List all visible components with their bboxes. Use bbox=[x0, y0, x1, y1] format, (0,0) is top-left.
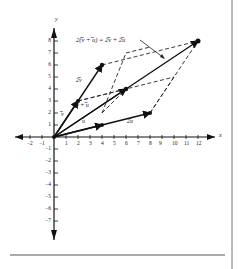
x-tick: 12 bbox=[196, 140, 202, 146]
x-tick: 7 bbox=[137, 140, 140, 146]
x-tick: 6 bbox=[125, 140, 128, 146]
x-tick: 10 bbox=[172, 140, 178, 146]
dashed-construction-lines bbox=[78, 41, 198, 113]
y-tick: 2 bbox=[48, 109, 51, 115]
y-tick: −7 bbox=[45, 217, 51, 223]
x-tick: 3 bbox=[89, 140, 92, 146]
y-tick: 8 bbox=[48, 37, 51, 43]
x-tick: 5 bbox=[113, 140, 116, 146]
y-tick: −3 bbox=[45, 169, 51, 175]
equation-label: 2(̅v + ̅u) = 2̅v + 2̅u bbox=[76, 36, 125, 43]
x-tick: 8 bbox=[149, 140, 152, 146]
y-tick: 4 bbox=[48, 85, 51, 91]
x-tick: 2 bbox=[77, 140, 80, 146]
equation-pointer bbox=[140, 40, 164, 58]
y-tick: 1 bbox=[48, 121, 51, 127]
y-tick: 6 bbox=[48, 61, 51, 67]
y-tick: 7 bbox=[48, 49, 51, 55]
y-tick: −4 bbox=[45, 181, 51, 187]
y-tick: −2 bbox=[45, 157, 51, 163]
y-tick: −5 bbox=[45, 193, 51, 199]
label-2u: 2̅u bbox=[127, 118, 133, 124]
label-u: ̅u bbox=[82, 118, 85, 124]
x-tick: 1 bbox=[65, 140, 68, 146]
y-axis-label: y bbox=[55, 16, 58, 22]
y-tick: −6 bbox=[45, 205, 51, 211]
y-tick: −1 bbox=[45, 145, 51, 151]
label-v: ̅v bbox=[61, 111, 64, 117]
label-v-plus-u: ̅v + ̅u bbox=[76, 102, 89, 108]
x-tick: 9 bbox=[159, 140, 162, 146]
y-tick: 3 bbox=[48, 97, 51, 103]
x-tick: 4 bbox=[101, 140, 104, 146]
y-tick: 5 bbox=[48, 73, 51, 79]
y-tick-labels: 1 2 3 4 5 6 7 8 −1 −2 −3 −4 −5 −6 −7 bbox=[0, 0, 54, 269]
label-2v: 2̅v bbox=[76, 77, 82, 83]
x-tick: 11 bbox=[184, 140, 189, 146]
x-axis-label: x bbox=[219, 132, 222, 138]
